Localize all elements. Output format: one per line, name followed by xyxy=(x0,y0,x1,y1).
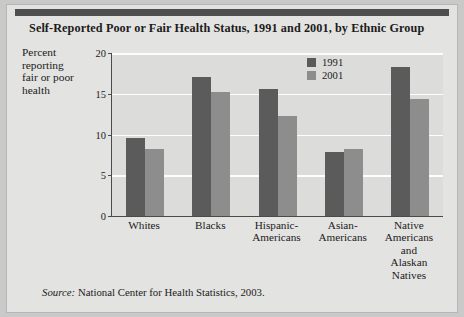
bar-2001-blacks xyxy=(211,92,230,216)
legend-label-2001: 2001 xyxy=(322,70,343,81)
x-axis-label-line: Natives xyxy=(376,269,442,281)
y-axis-label: Percentreportingfair or poorhealth xyxy=(22,46,94,96)
x-axis-label-line: Hispanic- xyxy=(243,219,309,231)
y-axis-label-line: fair or poor xyxy=(22,71,94,84)
legend-item-1991: 1991 xyxy=(307,57,343,68)
bar-2001-whites xyxy=(145,149,164,216)
x-axis-label-line: Blacks xyxy=(177,219,243,231)
y-axis-tick-label: 5 xyxy=(101,170,106,181)
source-prefix: Source: xyxy=(42,286,75,298)
bar-groups xyxy=(112,53,443,216)
x-axis-label-line: Americans xyxy=(243,231,309,243)
bar-1991-blacks xyxy=(192,77,211,216)
y-axis-label-line: reporting xyxy=(22,59,94,72)
legend-swatch-2001 xyxy=(307,71,316,80)
bar-group xyxy=(377,53,443,216)
bar-group xyxy=(244,53,310,216)
bar-2001-native-americans-and-alaskan-natives xyxy=(410,99,429,216)
x-axis-label: Asian-Americans xyxy=(310,219,376,281)
legend-item-2001: 2001 xyxy=(307,70,343,81)
x-axis-label-line: Whites xyxy=(111,219,177,231)
x-axis-label-line: Americans xyxy=(310,231,376,243)
bar-1991-asian--americans xyxy=(325,152,344,216)
top-rule xyxy=(15,9,449,16)
legend: 1991 2001 xyxy=(307,57,343,83)
x-axis-label-line: Alaskan xyxy=(376,256,442,268)
x-axis-label-line: Americans xyxy=(376,231,442,243)
y-axis-tick-label: 20 xyxy=(96,48,107,59)
bar-1991-whites xyxy=(126,138,145,216)
x-axis-label: Hispanic-Americans xyxy=(243,219,309,281)
source-note: Source: National Center for Health Stati… xyxy=(42,286,265,298)
figure-panel: Self-Reported Poor or Fair Health Status… xyxy=(7,5,457,312)
bar-2001-asian--americans xyxy=(344,149,363,216)
y-axis-tick-label: 10 xyxy=(96,129,107,140)
source-text: National Center for Health Statistics, 2… xyxy=(75,286,265,298)
chart-title: Self-Reported Poor or Fair Health Status… xyxy=(29,21,439,36)
legend-swatch-1991 xyxy=(307,58,316,67)
legend-label-1991: 1991 xyxy=(322,57,343,68)
y-axis-tick-label: 15 xyxy=(96,88,107,99)
x-axis-label-line: Asian- xyxy=(310,219,376,231)
bar-1991-hispanic--americans xyxy=(259,89,278,216)
y-axis-label-line: Percent xyxy=(22,46,94,59)
y-axis-tick-mark xyxy=(108,216,112,217)
x-axis-label: Whites xyxy=(111,219,177,281)
y-axis-label-line: health xyxy=(22,84,94,97)
x-axis-label: Blacks xyxy=(177,219,243,281)
x-axis-label-line: and xyxy=(376,244,442,256)
plot-area: 05101520 xyxy=(111,53,443,217)
y-axis-tick-label: 0 xyxy=(101,211,106,222)
bar-group xyxy=(112,53,178,216)
bar-group xyxy=(178,53,244,216)
bar-2001-hispanic--americans xyxy=(278,116,297,216)
x-axis-label-line: Native xyxy=(376,219,442,231)
x-axis-label: NativeAmericansandAlaskanNatives xyxy=(376,219,442,281)
x-axis-labels: WhitesBlacksHispanic-AmericansAsian-Amer… xyxy=(111,219,442,281)
bar-1991-native-americans-and-alaskan-natives xyxy=(391,67,410,216)
